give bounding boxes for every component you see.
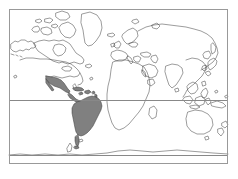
world-map-figure (0, 0, 238, 179)
region-southern-cone (75, 135, 79, 146)
world-map-svg (0, 0, 238, 179)
